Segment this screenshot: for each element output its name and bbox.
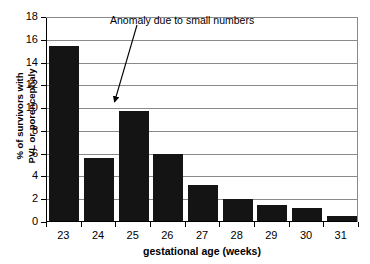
y-axis-title: % of survivors with PVL or porencephaly [14, 18, 38, 214]
x-axis-tick-label: 31 [326, 229, 356, 241]
gridline [47, 85, 358, 86]
x-axis-tick-label: 26 [152, 229, 182, 241]
x-axis-tick [358, 222, 359, 227]
x-axis-tick-label: 27 [187, 229, 217, 241]
bar [327, 216, 357, 221]
x-axis-tick [219, 222, 220, 227]
x-axis-tick-label: 25 [118, 229, 148, 241]
bar [84, 158, 114, 221]
y-axis-tick [41, 176, 46, 177]
y-axis-tick [41, 17, 46, 18]
y-axis-tick [41, 154, 46, 155]
y-axis-tick [41, 63, 46, 64]
y-axis-title-line-1: % of survivors with [14, 18, 26, 214]
y-axis-tick-label: 12 [12, 79, 38, 90]
bar [223, 199, 253, 221]
y-axis-title-line-2: PVL or porencephaly [26, 18, 38, 214]
x-axis-tick-label: 23 [48, 229, 78, 241]
annotation-arrow-icon [100, 18, 160, 113]
bar [257, 205, 287, 222]
y-axis-tick-label: 2 [12, 193, 38, 204]
bar [292, 208, 322, 221]
gridline [47, 63, 358, 64]
gridline [47, 154, 358, 155]
bar [119, 111, 149, 221]
y-axis-tick-label: 8 [12, 125, 38, 136]
gridline [47, 108, 358, 109]
y-axis-tick-label: 16 [12, 34, 38, 45]
y-axis-tick-label: 10 [12, 102, 38, 113]
bar [153, 154, 183, 221]
y-axis-tick [41, 85, 46, 86]
x-axis-title: gestational age (weeks) [46, 245, 358, 257]
y-axis-tick-label: 14 [12, 57, 38, 68]
bar [49, 46, 79, 221]
y-axis-tick [41, 199, 46, 200]
gridline [47, 40, 358, 41]
y-axis-tick-label: 18 [12, 11, 38, 22]
y-axis-tick-label: 6 [12, 148, 38, 159]
x-axis-tick-label: 29 [256, 229, 286, 241]
x-axis-tick [323, 222, 324, 227]
x-axis-tick [46, 222, 47, 227]
x-axis-tick-label: 30 [291, 229, 321, 241]
y-axis-tick [41, 108, 46, 109]
x-axis-tick [185, 222, 186, 227]
y-axis-tick [41, 40, 46, 41]
y-axis-tick [41, 131, 46, 132]
plot-right-border [357, 17, 358, 222]
bar [188, 185, 218, 221]
x-axis-tick-label: 24 [83, 229, 113, 241]
bar-chart: % of survivors with PVL or porencephaly … [0, 0, 370, 264]
y-axis-tick-label: 4 [12, 170, 38, 181]
x-axis-tick [115, 222, 116, 227]
x-axis-tick [254, 222, 255, 227]
y-axis-tick-label: 0 [12, 216, 38, 227]
plot-area [46, 17, 358, 222]
x-axis-tick [150, 222, 151, 227]
gridline [47, 131, 358, 132]
x-axis-tick-label: 28 [222, 229, 252, 241]
x-axis-tick [81, 222, 82, 227]
x-axis-tick [289, 222, 290, 227]
